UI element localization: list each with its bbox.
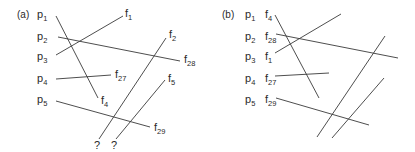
label-f2: f2 — [169, 28, 176, 43]
label-p1: p1 — [245, 8, 255, 23]
matching-diagram: (a) p1 p2 p3 p4 p5 f1 f28 f27 f4 f29 f2 … — [0, 0, 415, 152]
label-f29: f29 — [265, 93, 276, 108]
label-p1: p1 — [37, 8, 47, 23]
edge-unlabeled-long-1 — [317, 36, 385, 137]
edge-f4-line — [275, 15, 319, 98]
label-f28: f28 — [265, 30, 276, 45]
label-unknown-2: ? — [111, 139, 117, 151]
label-f29: f29 — [154, 121, 165, 136]
label-f5: f5 — [168, 72, 175, 87]
label-p3: p3 — [245, 50, 255, 65]
label-p5: p5 — [245, 93, 255, 108]
label-f1: f1 — [265, 50, 272, 65]
label-p2: p2 — [37, 30, 47, 45]
label-p4: p4 — [37, 72, 47, 87]
label-p3: p3 — [37, 50, 47, 65]
label-f1: f1 — [125, 7, 132, 22]
label-f27: f27 — [115, 68, 126, 83]
panel-a-tag: (a) — [17, 9, 29, 20]
label-f28: f28 — [184, 53, 195, 68]
edge-f27-line — [275, 73, 329, 76]
label-f4: f4 — [101, 94, 108, 109]
edge-unlabeled-long-2 — [332, 78, 384, 138]
label-f4: f4 — [265, 8, 272, 23]
label-p2: p2 — [245, 30, 255, 45]
edge-p2-f28 — [58, 37, 180, 61]
label-f27: f27 — [265, 72, 276, 87]
label-unknown-1: ? — [94, 139, 100, 151]
edge-f28-line — [276, 34, 398, 58]
panel-b-tag: (b) — [222, 9, 234, 20]
edge-p1-f4 — [56, 16, 98, 98]
label-p4: p4 — [245, 72, 255, 87]
edge-p4-f27 — [56, 75, 111, 79]
panel-a: (a) p1 p2 p3 p4 p5 f1 f28 f27 f4 f29 f2 … — [17, 7, 195, 151]
label-p5: p5 — [37, 93, 47, 108]
panel-b: (b) p1 p2 p3 p4 p5 f4 f28 f1 f27 f29 — [222, 8, 398, 138]
